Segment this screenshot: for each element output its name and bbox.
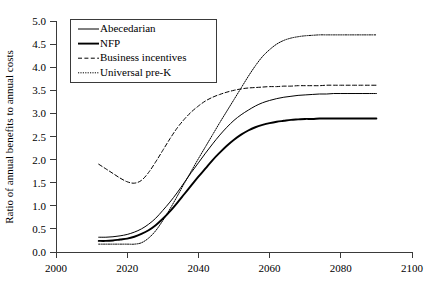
x-tick-label: 2020	[116, 262, 139, 274]
x-tick-label: 2040	[187, 262, 210, 274]
legend-label-universal-pre-k: Universal pre-K	[100, 66, 171, 78]
y-tick-label: 0.5	[32, 223, 46, 235]
y-tick-label: 1.5	[32, 177, 46, 189]
legend-label-nfp: NFP	[100, 37, 120, 49]
x-tick-label: 2080	[330, 262, 353, 274]
line-chart: Ratio of annual benefits to annual costs…	[0, 0, 426, 289]
y-tick-label: 4.5	[32, 38, 46, 50]
y-tick-label: 2.0	[32, 154, 46, 166]
x-tick-label: 2000	[45, 262, 68, 274]
y-tick-label: 1.0	[32, 200, 46, 212]
y-tick-label: 0.0	[32, 246, 46, 258]
x-tick-label: 2060	[259, 262, 282, 274]
y-tick-label: 5.0	[32, 15, 46, 27]
y-tick-label: 3.0	[32, 107, 46, 119]
y-tick-label: 4.0	[32, 61, 46, 73]
y-axis-title: Ratio of annual benefits to annual costs	[3, 50, 15, 224]
x-tick-label: 2100	[401, 262, 424, 274]
y-tick-label: 2.5	[32, 131, 46, 143]
chart-legend: AbecedarianNFPBusiness incentivesUnivers…	[70, 19, 216, 82]
legend-label-business-incentives: Business incentives	[100, 51, 186, 63]
legend-label-abecedarian: Abecedarian	[100, 22, 156, 34]
chart-container: Ratio of annual benefits to annual costs…	[0, 0, 426, 289]
y-tick-label: 3.5	[32, 84, 46, 96]
